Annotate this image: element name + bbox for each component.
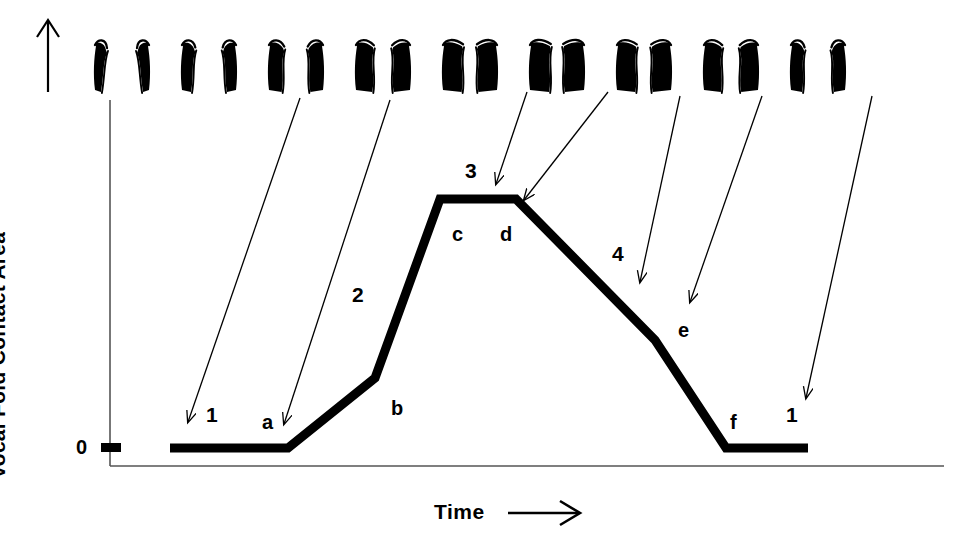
fold-edge-outline bbox=[562, 47, 564, 93]
arrow-to-e bbox=[690, 96, 762, 302]
point-label-c: c bbox=[452, 224, 463, 244]
glottis-frame-closing-3 bbox=[268, 40, 324, 93]
fold-edge-outline bbox=[307, 50, 310, 94]
point-label-f: f bbox=[730, 412, 737, 432]
fold-edge-outline bbox=[283, 50, 286, 94]
fold-edge-outline bbox=[373, 48, 375, 93]
vocal-fold-right bbox=[831, 43, 846, 92]
annotation-arrow-group bbox=[188, 92, 872, 424]
fold-edge-outline bbox=[636, 47, 638, 93]
phase-label-3: 3 bbox=[465, 160, 477, 181]
fold-edge-outline bbox=[476, 47, 478, 93]
vocal-fold-contact-area-figure: Vocal Fold Contact Area Time 0 12341 abc… bbox=[0, 0, 970, 553]
glottal-frame-row bbox=[94, 40, 846, 93]
up-arrow-icon bbox=[37, 20, 59, 92]
arrow-to-d bbox=[524, 92, 608, 200]
phase-label-1: 1 bbox=[206, 404, 218, 425]
point-label-a: a bbox=[262, 412, 273, 432]
vocal-fold-left bbox=[268, 43, 284, 92]
vocal-fold-right bbox=[308, 43, 324, 92]
y-axis-zero-tick bbox=[101, 443, 121, 452]
glottis-frame-contact-5 bbox=[442, 40, 498, 93]
phase-label-2: 2 bbox=[352, 284, 364, 305]
glottis-frame-opening-8 bbox=[703, 40, 759, 93]
vocal-fold-right bbox=[740, 42, 759, 92]
fold-edge-outline bbox=[391, 48, 393, 93]
vocal-fold-left bbox=[529, 42, 551, 92]
arrow-to-1-right bbox=[806, 96, 872, 398]
glottis-frame-open-9 bbox=[790, 40, 846, 93]
fold-edge-outline bbox=[550, 47, 552, 93]
y-axis-tick-label-0: 0 bbox=[76, 436, 87, 459]
glottis-frame-contact-6 bbox=[529, 40, 585, 93]
vocal-fold-left bbox=[703, 42, 722, 92]
point-label-e: e bbox=[678, 320, 689, 340]
point-label-d: d bbox=[500, 224, 512, 244]
fold-edge-outline bbox=[722, 48, 724, 93]
fold-edge-outline bbox=[650, 47, 652, 93]
arrow-to-4 bbox=[640, 96, 680, 282]
right-arrow-icon bbox=[508, 501, 580, 525]
phase-label-4: 4 bbox=[612, 243, 624, 264]
point-label-b: b bbox=[391, 398, 403, 418]
vocal-fold-left bbox=[442, 42, 463, 92]
vocal-fold-left bbox=[616, 42, 637, 92]
vocal-fold-right bbox=[563, 42, 585, 92]
vocal-fold-left bbox=[790, 43, 805, 92]
fold-edge-outline bbox=[803, 50, 805, 93]
vocal-fold-right bbox=[392, 42, 411, 92]
arrow-to-3 bbox=[496, 92, 527, 184]
vocal-fold-right bbox=[477, 42, 498, 92]
glottis-frame-closing-2 bbox=[181, 40, 237, 93]
figure-canvas bbox=[0, 0, 970, 553]
arrow-to-1-left bbox=[188, 98, 300, 422]
fold-edge-outline bbox=[463, 47, 465, 93]
glottis-frame-opening-7 bbox=[616, 40, 672, 93]
glottis-frame-open-1 bbox=[94, 40, 150, 93]
fold-edge-outline bbox=[830, 50, 832, 93]
axis-lines bbox=[101, 100, 944, 466]
fold-edge-outline bbox=[739, 48, 741, 93]
vocal-fold-left bbox=[355, 42, 374, 92]
vocal-fold-right bbox=[651, 42, 672, 92]
glottis-frame-contacting-4 bbox=[355, 40, 411, 93]
phase-label-5: 1 bbox=[786, 404, 798, 425]
x-axis-title: Time bbox=[434, 500, 485, 524]
y-axis-title: Vocal Fold Contact Area bbox=[0, 232, 10, 479]
